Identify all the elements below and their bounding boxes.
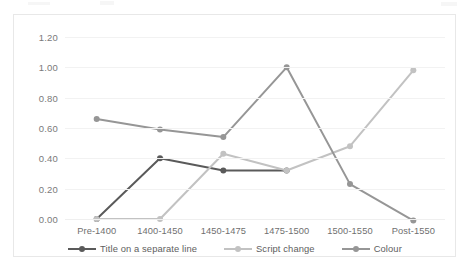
data-point-marker [94, 116, 100, 122]
data-point-marker [347, 143, 353, 149]
legend-item-label: Script change [256, 243, 315, 254]
gridline-0.80 [65, 98, 445, 99]
legend-item[interactable]: Title on a separate line [67, 243, 197, 254]
gridline-0.00 [65, 219, 445, 220]
y-axis-tick-label: 0.20 [39, 183, 58, 194]
legend-item-label: Colour [374, 243, 402, 254]
y-axis-tick-label: 1.20 [39, 32, 58, 43]
gridline-0.60 [65, 128, 445, 129]
gridline-1.00 [65, 67, 445, 68]
x-axis-tick-label: 1475-1500 [264, 226, 309, 236]
scan-artifact-top-left [28, 2, 50, 5]
y-axis-tick-label: 0.60 [39, 123, 58, 134]
x-axis-tick-label: 1450-1475 [201, 226, 246, 236]
x-axis-tick-label: 1400-1450 [137, 226, 182, 236]
data-point-marker [220, 151, 226, 157]
data-point-marker [220, 134, 226, 140]
data-point-marker [284, 167, 290, 173]
x-axis-tick-label: 1500-1550 [327, 226, 372, 236]
gridline-0.20 [65, 189, 445, 190]
series-line [97, 67, 414, 220]
y-axis-tick-label: 0.80 [39, 92, 58, 103]
legend-item[interactable]: Colour [341, 243, 402, 254]
scan-artifact-top-center [100, 1, 114, 5]
scan-artifact-top-right [441, 2, 457, 6]
gridline-0.40 [65, 158, 445, 159]
legend-line-marker-icon [67, 244, 97, 254]
plot-area: 0.000.200.400.600.801.001.20Pre-14001400… [65, 37, 445, 219]
y-axis-tick-label: 1.00 [39, 62, 58, 73]
data-point-marker [220, 167, 226, 173]
chart-container: 0.000.200.400.600.801.001.20Pre-14001400… [13, 14, 456, 257]
y-axis-tick-label: 0.00 [39, 214, 58, 225]
legend-line-marker-icon [223, 244, 253, 254]
chart-legend: Title on a separate lineScript changeCol… [14, 243, 455, 254]
series-line [97, 70, 414, 219]
gridline-1.20 [65, 37, 445, 38]
x-axis-tick-label: Post-1550 [392, 226, 435, 236]
data-point-marker [347, 181, 353, 187]
legend-item[interactable]: Script change [223, 243, 315, 254]
legend-line-marker-icon [341, 244, 371, 254]
x-axis-tick-label: Pre-1400 [77, 226, 116, 236]
legend-item-label: Title on a separate line [100, 243, 197, 254]
y-axis-tick-label: 0.40 [39, 153, 58, 164]
